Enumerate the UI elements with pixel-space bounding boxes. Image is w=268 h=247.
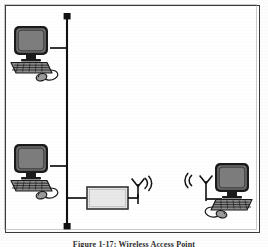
antenna-client-icon (200, 176, 213, 201)
access-point-box (87, 187, 128, 209)
workstation-wireless-right (185, 163, 252, 219)
radio-waves-client (185, 173, 192, 187)
network-diagram (0, 0, 268, 247)
computer-icon (11, 144, 58, 200)
workstation-bottom-left (11, 144, 67, 200)
access-point (67, 176, 152, 209)
computer-icon (205, 163, 252, 219)
computer-icon (11, 26, 58, 82)
backbone-terminator-bottom (64, 223, 71, 229)
antenna-access-point-icon (132, 179, 145, 204)
radio-waves-access-point (145, 176, 152, 190)
figure-caption: Figure 1-17: Wireless Access Point (0, 240, 268, 247)
workstation-top-left (11, 26, 67, 82)
figure-root: Figure 1-17: Wireless Access Point (0, 0, 268, 247)
network-backbone-bus (64, 13, 71, 229)
backbone-terminator-top (64, 13, 71, 19)
